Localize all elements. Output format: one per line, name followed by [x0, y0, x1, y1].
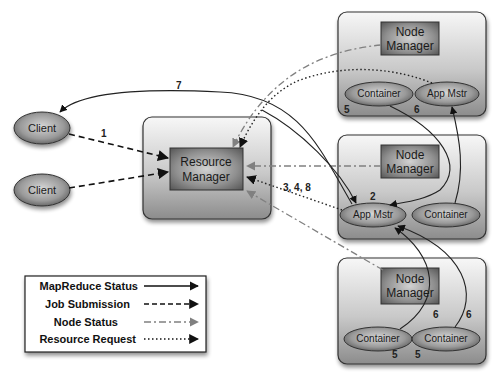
nm1-step-6: 6: [414, 104, 420, 115]
client-2-label: Client: [28, 184, 56, 196]
resource-manager-label-2: Manager: [182, 170, 229, 184]
nm2-app-master-label: App Mstr: [353, 209, 394, 220]
edge-label-1: 1: [101, 128, 107, 139]
nm3-step-5a: 5: [392, 349, 398, 360]
client-2: Client: [14, 174, 70, 206]
nm2-container-label: Container: [424, 209, 468, 220]
nm1-step-5: 5: [344, 104, 350, 115]
nm3-container-b-label: Container: [424, 333, 468, 344]
nm3-edge-step-6b: 6: [466, 309, 472, 320]
edge-label-348: 3, 4, 8: [283, 182, 311, 193]
node-manager-3-label-1: Node: [396, 272, 425, 286]
node-manager-1-label-1: Node: [396, 25, 425, 39]
legend-job-submission: Job Submission: [45, 298, 130, 310]
nm2-step-2: 2: [370, 191, 376, 202]
legend-node-status: Node Status: [54, 316, 118, 328]
node-manager-1-label-2: Manager: [386, 39, 433, 53]
edge-label-7: 7: [176, 80, 182, 91]
nm3-step-5b: 5: [415, 349, 421, 360]
node-manager-1-panel: Node Manager Container App Mstr 5 6: [338, 12, 486, 116]
nm1-container-label: Container: [357, 88, 401, 99]
node-manager-2-label-2: Manager: [386, 162, 433, 176]
resource-manager-panel: Resource Manager: [143, 117, 271, 219]
legend: MapReduce Status Job Submission Node Sta…: [25, 276, 206, 352]
client-1-label: Client: [28, 122, 56, 134]
resource-manager-label-1: Resource: [180, 155, 232, 169]
nm3-edge-step-6a: 6: [433, 309, 439, 320]
node-manager-2-label-1: Node: [396, 148, 425, 162]
nm1-app-master-label: App Mstr: [427, 88, 468, 99]
node-manager-2-panel: Node Manager App Mstr Container 2: [338, 135, 486, 239]
yarn-architecture-diagram: Resource Manager Node Manager Container …: [0, 0, 497, 376]
client-1: Client: [14, 112, 70, 144]
legend-resource-request: Resource Request: [39, 333, 136, 345]
nm3-container-a-label: Container: [356, 333, 400, 344]
legend-mapreduce-status: MapReduce Status: [40, 280, 138, 292]
